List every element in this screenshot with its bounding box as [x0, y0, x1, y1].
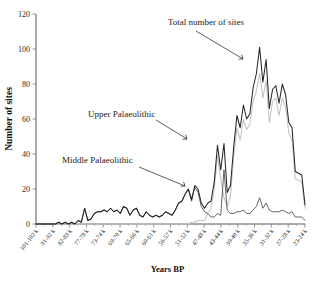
x-tick-label: 77-78 k — [72, 227, 90, 247]
annotation-middle-palaeolithic: Middle Palaeolithic — [62, 155, 133, 165]
x-tick-label: 101-102 k — [18, 227, 40, 252]
x-tick-label: 69-70 k — [106, 227, 124, 247]
annotation-total-number-of-sites: Total number of sites — [168, 17, 245, 27]
x-axis-title: Years BP — [151, 264, 185, 274]
series-line-middle-palaeolithic — [36, 170, 305, 224]
annotation-upper-palaeolithic: Upper Palaeolithic — [88, 109, 155, 119]
y-axis-title: Number of sites — [4, 87, 14, 151]
plot-axes — [36, 14, 305, 224]
y-tick-label: 0 — [26, 220, 30, 229]
x-tick-label: 27-28 k — [274, 227, 292, 247]
x-tick-label: 56-57 k — [157, 227, 175, 247]
y-tick-label: 100 — [18, 45, 30, 54]
series-line-upper-palaeolithic — [36, 74, 305, 225]
x-tick-label: 31-32 k — [257, 227, 275, 247]
x-tick-label: 65-66 k — [123, 227, 141, 247]
annotation-leader-line — [139, 167, 185, 186]
y-tick-label: 60 — [22, 115, 30, 124]
x-tick-label: 73-74 k — [89, 227, 107, 247]
x-tick-label: 91-92 k — [39, 227, 57, 247]
y-tick-label: 20 — [22, 185, 30, 194]
x-tick-label: 51-52 k — [173, 227, 191, 247]
chart-figure: 020406080100120101-102 k91-92 k82-83 k77… — [0, 0, 318, 282]
x-tick-label: 39-40 k — [224, 227, 242, 247]
x-tick-label: 35-36 k — [241, 227, 259, 247]
x-tick-label: 23-24 k — [291, 227, 309, 247]
x-tick-label: 43-44 k — [207, 227, 225, 247]
y-tick-label: 40 — [22, 150, 30, 159]
line-chart: 020406080100120101-102 k91-92 k82-83 k77… — [0, 0, 318, 282]
x-tick-label: 60-61 k — [140, 227, 158, 247]
annotation-leader-line — [196, 31, 243, 59]
annotation-leader-line — [156, 120, 187, 139]
y-tick-label: 120 — [18, 10, 30, 19]
y-tick-label: 80 — [22, 80, 30, 89]
x-tick-label: 47-48 k — [190, 227, 208, 247]
series-line-total — [36, 47, 305, 224]
x-tick-label: 82-83 k — [56, 227, 74, 247]
